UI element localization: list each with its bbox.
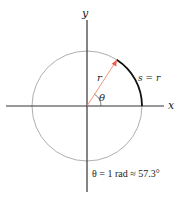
caption: θ = 1 rad ≈ 57.3° <box>92 168 160 179</box>
x-axis-label: x <box>168 99 175 112</box>
arc-label: s = r <box>138 73 161 83</box>
radius-label: r <box>97 72 103 83</box>
radian-diagram: y x r s = r θ θ = 1 rad ≈ 57.3° <box>0 0 184 204</box>
radius-arrowhead-icon <box>112 60 117 67</box>
angle-label: θ <box>99 92 105 103</box>
y-axis-label: y <box>81 7 89 20</box>
